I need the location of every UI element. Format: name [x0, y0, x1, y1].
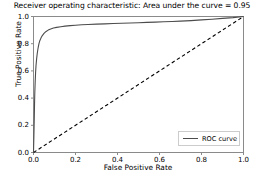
y-tick-label: 0.0 — [11, 149, 29, 157]
y-axis-label: True Positive Rate — [14, 4, 24, 104]
y-tick-label: 0.2 — [11, 121, 29, 129]
roc-curve-figure: Receiver operating characteristic: Area … — [0, 0, 264, 176]
x-axis-label: False Positive Rate — [33, 163, 243, 172]
legend-label-roc-curve: ROC curve — [202, 135, 237, 143]
plot-canvas — [0, 0, 264, 176]
legend-line-swatch — [183, 138, 198, 139]
y-axis-label-wrapper: True Positive Rate — [14, 4, 24, 104]
legend: ROC curve — [178, 131, 240, 146]
